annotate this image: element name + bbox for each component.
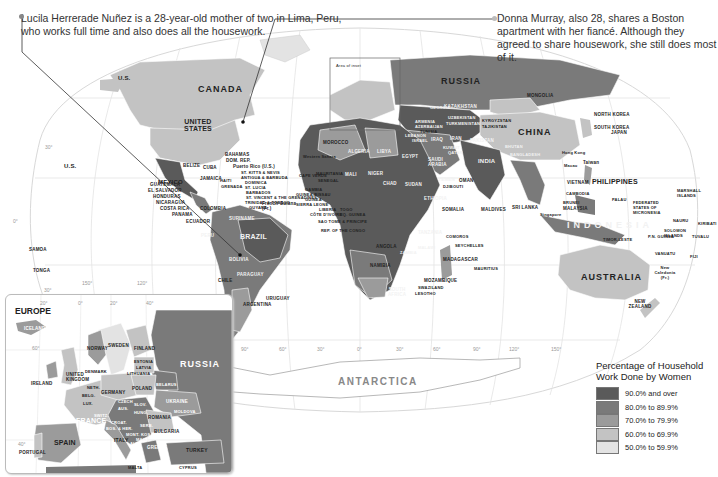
label-bolivia: BOLIVIA [229,257,249,262]
inset-label-russia: RUSSIA [180,359,220,369]
label-pakistan: PAKISTAN [470,138,494,143]
label-palau: PALAU [612,197,626,202]
label-macau: Macau [564,163,577,168]
label-iraq: IRAQ [431,137,443,142]
label-djibouti: DJIBOUTI [443,184,463,189]
label-niger: NIGER [368,171,383,176]
label-angola: ANGOLA [376,244,397,249]
label-argentina: ARGENTINA [243,302,272,307]
label-algeria: ALGERIA [348,149,370,154]
inset-label-lux: LUX. [83,401,93,406]
legend-item: 60.0% to 69.9% [596,428,716,442]
inset-label-austria: AUS. [118,406,128,411]
label-malaysia: MALAYSIA [563,206,588,211]
inset-label-italy: ITALY [114,437,129,443]
degree-label: 40° [18,441,26,447]
label-vietnam: VIETNAM [567,180,589,185]
legend-item: 70.0% to 79.9% [596,414,716,428]
label-libya: LIBYA [377,149,391,154]
inset-label-norway: NORWAY [87,346,108,351]
label-kyrgyzstan: KYRGYZSTAN [482,118,511,123]
degree-label: 0° [357,346,362,352]
inset-label-latvia: LATVIA [136,365,151,370]
label-marshall-islands: MARSHALL ISLANDS [677,188,705,198]
label-area-of-inset: Area of inset [336,63,361,68]
label-grenada: GRENADA [221,184,243,189]
label-eq-guinea: EQ. GUINEA [340,212,366,217]
legend-label: 70.0% to 79.9% [625,416,678,425]
inset-label-cyprus: CYPRUS [179,465,197,470]
label-jamaica: JAMAICA [200,176,222,181]
label-chad: CHAD [383,181,397,186]
inset-label-czech: CZECH [118,399,133,404]
label-fiji: FIJI [690,254,698,259]
degree-label: 0° [13,218,18,224]
label-costa-rica: COSTA RICA [160,206,190,211]
label-qatar: QATAR [448,150,463,155]
label-png: P.N. GUINEA [648,234,674,239]
label-puerto-rico: Puerto Rico (U.S.) [233,164,275,169]
label-bhutan: BHUTAN [505,144,523,149]
callout-lima: Lucila Herrerade Nuñez is a 28-year-old … [21,12,351,38]
degree-label: 90° [241,346,249,352]
legend-label: 90.0% and over [625,389,678,398]
degree-label: 0° [78,300,83,306]
degree-label: 120° [509,346,519,352]
label-us-alaska: U.S. [118,75,130,81]
label-singapore: Singapore [540,212,561,217]
label-tonga: TONGA [33,268,50,273]
degree-label: 30° [44,287,52,293]
legend-swatch [596,401,619,414]
label-bahamas: BAHAMAS [225,152,249,157]
label-honduras: HONDURAS [153,194,181,199]
inset-label-spain: SPAIN [54,439,76,446]
inset-label-hungary: HUNG. [134,410,148,415]
label-cote-divoire: CÔTE D'IVOIRE [310,212,342,217]
label-turkmenistan: TURKMENISTAN [446,121,480,126]
label-kiribati: KIRIBATI [698,221,717,226]
inset-label-netherlands: NETH. [87,385,100,390]
label-malawi: MALAWI [418,245,435,250]
label-suriname: SURINAME [229,216,255,221]
label-el-salvador: EL SALVADOR [148,188,182,193]
inset-title: EUROPE [15,306,51,316]
legend-swatch [596,414,619,427]
inset-label-bulgaria: BULGARIA [154,429,179,434]
legend-item: 50.0% to 59.9% [596,441,716,455]
label-taiwan: Taiwan [583,160,599,165]
inset-label-slovakia: SLOV. [134,402,147,407]
label-new-caledonia: New Caledonia (Fr.) [652,265,678,280]
degree-label: 20° [110,300,118,306]
label-bangladesh: BANGLADESH [510,152,540,157]
label-cuba: CUBA [203,165,217,170]
map-figure: Lucila Herrerade Nuñez is a 28-year-old … [0,0,718,477]
legend-item: 90.0% and over [596,387,716,401]
degree-label: 60° [279,346,287,352]
legend-label: 80.0% to 89.9% [625,403,678,412]
label-comoros: COMOROS [446,234,469,239]
inset-label-romania: ROMANIA [148,415,171,420]
region-europe [330,80,395,120]
callout-left-bullet [19,14,24,19]
europe-inset: EUROPE ICELAND NORWAY SWEDEN FINLAND EST… [5,294,233,474]
degree-label: 60° [32,345,40,351]
label-dom-rep: DOM. REP. [226,158,251,163]
label-new-zealand: NEW ZEALAND [627,299,653,309]
label-zambia: ZAMBIA [400,250,417,255]
legend-title: Percentage of Household Work Done by Wom… [596,360,716,382]
label-yemen: YEMEN [438,177,455,182]
label-lesotho: LESOTHO [415,291,436,296]
degree-label: 40° [146,300,154,306]
inset-label-finland: FINLAND [134,346,155,351]
label-india: INDIA [478,158,495,164]
degree-label: 120° [137,280,147,286]
legend: Percentage of Household Work Done by Wom… [596,360,716,455]
label-western-sahara: Western Sahara [303,154,336,159]
inset-label-moldova: MOLDOVA [174,409,196,414]
inset-label-estonia: ESTONIA [134,359,153,364]
label-nicaragua: NICARAGUA [156,200,185,205]
label-hong-kong: Hong Kong [562,150,585,155]
inset-label-germany: GERMANY [101,390,125,395]
legend-swatch [596,441,619,454]
label-saudi-arabia: SAUDI ARABIA [428,157,454,167]
